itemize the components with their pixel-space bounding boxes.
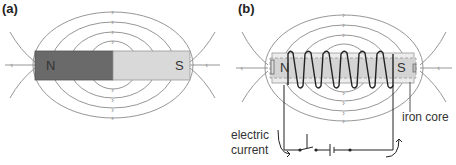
north-label-b: N [280, 60, 289, 75]
svg-text:›: › [111, 96, 114, 105]
magnetic-field-diagram: ›››› ›››› ‹‹ ››› ›››› ‹‹ [0, 0, 456, 165]
svg-text:›: › [342, 21, 345, 30]
svg-text:›: › [111, 18, 114, 27]
svg-text:›: › [111, 28, 114, 37]
north-label-a: N [46, 58, 55, 73]
iron-core [270, 58, 416, 78]
svg-text:›: › [342, 31, 345, 40]
svg-text:›: › [342, 11, 345, 20]
svg-text:‹: ‹ [10, 61, 13, 70]
svg-text:›: › [111, 114, 114, 123]
svg-text:‹: ‹ [437, 64, 440, 73]
svg-text:›: › [111, 38, 114, 47]
south-label-a: S [175, 58, 184, 73]
svg-text:‹: ‹ [240, 64, 243, 73]
electric-current-label-2: current [231, 143, 268, 157]
iron-core-label: iron core [402, 110, 449, 124]
svg-text:›: › [111, 8, 114, 17]
electric-current-label-1: electric [231, 128, 269, 142]
south-label-b: S [397, 60, 406, 75]
svg-text:›: › [342, 99, 345, 108]
svg-text:‹: ‹ [205, 61, 208, 70]
svg-text:›: › [342, 89, 345, 98]
circuit [284, 82, 410, 156]
svg-text:›: › [111, 86, 114, 95]
svg-text:›: › [342, 117, 345, 126]
